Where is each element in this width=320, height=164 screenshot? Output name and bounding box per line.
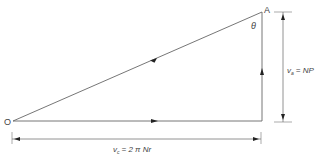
base-line bbox=[13, 119, 262, 123]
vertical-dimension-label: va= NP bbox=[287, 66, 314, 76]
dimension-arrow-up-icon bbox=[281, 14, 285, 20]
dimension-arrow-down-icon bbox=[281, 114, 285, 120]
base-arrow-icon bbox=[151, 119, 158, 123]
horizontal-dimension-label: vc= 2 π Nr bbox=[113, 145, 151, 155]
vertical-arrow-icon bbox=[260, 68, 264, 75]
origin-label: O bbox=[4, 117, 11, 127]
svg-text:va= NP: va= NP bbox=[287, 66, 314, 76]
vc-subscript: c bbox=[117, 149, 120, 155]
apex-label: A bbox=[264, 5, 270, 15]
vc-expression: = 2 π Nr bbox=[122, 145, 152, 154]
angle-theta-label: θ bbox=[251, 21, 256, 31]
hypotenuse-line bbox=[13, 12, 262, 121]
va-expression: = NP bbox=[296, 66, 315, 75]
va-subscript: a bbox=[291, 70, 294, 76]
dimension-arrow-left-icon bbox=[14, 137, 20, 141]
svg-text:vc= 2 π Nr: vc= 2 π Nr bbox=[113, 145, 151, 155]
velocity-diagram: O A θ va= NP vc= 2 π Nr bbox=[0, 0, 320, 164]
hypotenuse-arrow-icon bbox=[150, 58, 157, 63]
horizontal-dimension bbox=[12, 132, 261, 144]
vertical-side-line bbox=[260, 12, 264, 121]
dimension-arrow-right-icon bbox=[253, 137, 259, 141]
